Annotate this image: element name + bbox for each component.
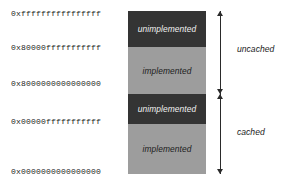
range-label-uncached: uncached: [237, 44, 274, 54]
block-uncached-unimplemented: unimplemented: [128, 11, 206, 47]
address-label-uncached-implemented-top: 0x80000fffffffffff: [11, 43, 101, 53]
block-label-cached-unimplemented: unimplemented: [138, 104, 197, 114]
memory-blocks-column: unimplemented implemented unimplemented …: [128, 11, 206, 174]
block-cached-implemented: implemented: [128, 124, 206, 174]
range-label-cached: cached: [237, 127, 265, 137]
block-uncached-implemented: implemented: [128, 47, 206, 94]
range-bracket-cached: [216, 94, 225, 174]
block-cached-unimplemented: unimplemented: [128, 94, 206, 124]
block-label-uncached-implemented: implemented: [142, 66, 191, 76]
arrow-up-icon-uncached: [217, 11, 223, 16]
arrow-down-icon-cached: [217, 169, 223, 174]
address-label-midpoint: 0x8000000000000000: [11, 79, 101, 89]
range-line-cached: [220, 94, 221, 174]
memory-map-diagram: 0xffffffffffffffff 0x80000fffffffffff 0x…: [0, 0, 293, 185]
range-bracket-uncached: [216, 11, 225, 94]
address-label-bottom: 0x0000000000000000: [11, 167, 101, 177]
range-line-uncached: [220, 11, 221, 94]
address-label-cached-implemented-top: 0x00000fffffffffff: [11, 117, 101, 127]
address-label-top: 0xffffffffffffffff: [11, 9, 101, 19]
arrow-up-icon-cached: [217, 94, 223, 99]
block-label-uncached-unimplemented: unimplemented: [138, 24, 197, 34]
block-label-cached-implemented: implemented: [142, 144, 191, 154]
